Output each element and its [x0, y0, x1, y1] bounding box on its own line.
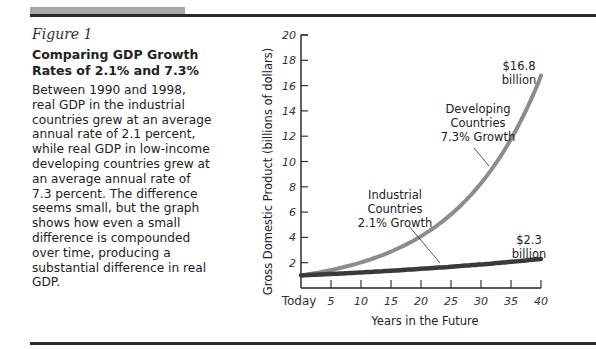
y-tick-label: 10	[282, 156, 296, 169]
y-tick-label: 20	[282, 29, 296, 42]
x-tick-label: 15	[384, 295, 398, 308]
industrial-curve-label: IndustrialCountries2.1% Growth	[358, 188, 433, 230]
y-tick-label: 6	[289, 206, 296, 219]
svg-text:Countries: Countries	[450, 116, 505, 130]
x-tick-label: 30	[474, 295, 488, 308]
y-axis-title: Gross Domestic Product (billions of doll…	[261, 48, 275, 295]
x-tick-label: Today	[281, 294, 317, 308]
annotations: $16.8billion$2.3billionDevelopingCountri…	[358, 59, 546, 263]
x-axis-title: Years in the Future	[370, 314, 478, 328]
footer-rule	[30, 342, 596, 345]
gdp-chart: 2468101214161820Today510152025303540Year…	[0, 0, 596, 349]
svg-text:Developing: Developing	[445, 102, 510, 116]
developing-leader-line	[474, 148, 489, 166]
x-tick-label: 5	[328, 295, 335, 308]
svg-text:billion: billion	[512, 247, 546, 261]
svg-text:2.1% Growth: 2.1% Growth	[358, 216, 433, 230]
svg-text:$2.3: $2.3	[516, 233, 542, 247]
x-tick-label: 20	[414, 295, 428, 308]
y-tick-label: 2	[289, 257, 296, 270]
svg-text:Countries: Countries	[367, 202, 422, 216]
y-tick-label: 18	[282, 54, 296, 67]
x-tick-label: 10	[354, 295, 368, 308]
y-tick-label: 12	[282, 130, 296, 143]
y-tick-label: 4	[289, 231, 296, 244]
developing-end-value-label: $16.8billion	[502, 59, 536, 87]
x-tick-label: 40	[534, 295, 548, 308]
industrial-leader-line	[409, 226, 440, 263]
svg-text:7.3% Growth: 7.3% Growth	[441, 130, 516, 144]
y-tick-label: 8	[289, 181, 296, 194]
x-tick-label: 35	[504, 295, 518, 308]
developing-curve-label: DevelopingCountries7.3% Growth	[441, 102, 516, 144]
svg-text:$16.8: $16.8	[503, 59, 536, 73]
svg-text:billion: billion	[502, 73, 536, 87]
y-tick-label: 16	[282, 80, 296, 93]
y-tick-label: 14	[282, 105, 296, 118]
x-tick-label: 25	[444, 295, 458, 308]
industrial-end-value-label: $2.3billion	[512, 233, 546, 261]
svg-text:Industrial: Industrial	[368, 188, 422, 202]
